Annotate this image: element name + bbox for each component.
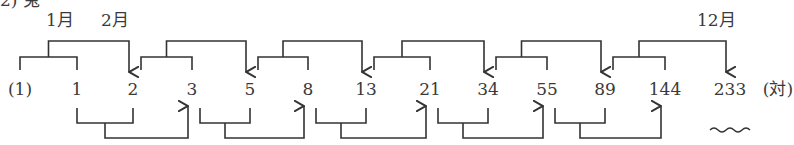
fibonacci-bracket-diagram (0, 0, 794, 145)
seq-number-144: 144 (649, 81, 681, 98)
seq-number-3: 3 (187, 81, 198, 98)
wavy-underline (710, 128, 750, 132)
seq-number-55: 55 (536, 81, 558, 98)
seq-number-2: 2 (128, 81, 139, 98)
sequence-prefix: (1) (8, 81, 32, 98)
seq-number-5: 5 (245, 81, 256, 98)
seq-number-233: 233 (714, 81, 746, 98)
seq-number-21: 21 (419, 81, 441, 98)
sequence-suffix: (対) (763, 81, 793, 98)
seq-number-1: 1 (72, 81, 83, 98)
seq-number-13: 13 (355, 81, 377, 98)
seq-number-89: 89 (594, 81, 616, 98)
seq-number-34: 34 (477, 81, 499, 98)
seq-number-8: 8 (303, 81, 314, 98)
